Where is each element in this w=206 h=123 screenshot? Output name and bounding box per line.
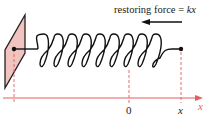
spring-coil	[37, 34, 182, 67]
wall-icon	[5, 15, 25, 88]
tick-label-x: x	[178, 104, 183, 116]
axis-label: x	[198, 100, 203, 112]
force-arrowhead-icon	[141, 19, 150, 25]
spring-diagram: restoring force = kx 0 x x	[0, 0, 206, 123]
diagram-canvas	[0, 0, 206, 123]
end-dot	[179, 47, 183, 51]
force-label: restoring force = kx	[114, 4, 196, 15]
tick-label-zero: 0	[126, 104, 132, 116]
